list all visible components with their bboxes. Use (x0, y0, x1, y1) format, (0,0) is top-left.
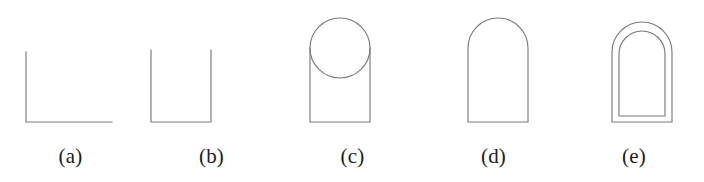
open-top-rectangle-path (151, 50, 211, 122)
circle-over-rectangle-drawing (282, 0, 423, 140)
figure-caption-b: (b) (141, 143, 282, 169)
figure-caption-e: (e) (564, 143, 704, 169)
open-top-rectangle-drawing (141, 0, 282, 140)
figure-item-a: (a) (0, 0, 141, 182)
corner-lines-path (26, 52, 112, 122)
figure-item-c: (c) (282, 0, 423, 182)
figure-item-b: (b) (141, 0, 282, 182)
figure-caption-d: (d) (423, 143, 564, 169)
arch-outline-drawing (423, 0, 564, 140)
figure-item-e: (e) (564, 0, 704, 182)
double-arch-drawing (564, 0, 704, 140)
figure-caption-c: (c) (282, 143, 423, 169)
circle-path (310, 18, 370, 78)
corner-lines-drawing (0, 0, 141, 140)
figure-item-d: (d) (423, 0, 564, 182)
figure-caption-a: (a) (0, 143, 141, 169)
outer-arch-path (612, 22, 672, 122)
inner-arch-path (619, 31, 665, 116)
figure-panel: (a) (b) (c) (d) (e) (0, 0, 704, 182)
rectangle-body-path (310, 48, 370, 122)
arch-outline-path (468, 18, 528, 122)
